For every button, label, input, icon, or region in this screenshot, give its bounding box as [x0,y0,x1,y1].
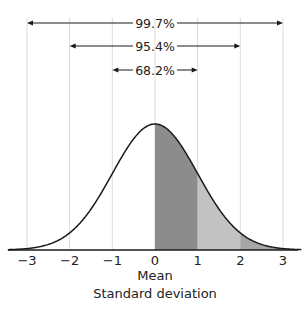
range-label: 99.7% [135,16,175,31]
x-tick-label: 1 [194,253,202,268]
x-tick-label: −1 [103,253,122,268]
range-annotation: 99.7% [27,16,283,31]
range-label: 68.2% [135,63,175,78]
shaded-region [155,124,198,250]
x-tick-label: −3 [17,253,36,268]
normal-distribution-chart: −3−2−10123 Mean Standard deviation 99.7%… [0,0,306,314]
range-annotation: 95.4% [70,39,241,54]
range-annotation: 68.2% [112,63,197,78]
shaded-regions [155,124,283,250]
x-tick-labels: −3−2−10123 [17,253,287,268]
arrow-left-icon [70,44,76,49]
x-tick-label: 2 [236,253,244,268]
arrow-left-icon [27,21,33,26]
sigma-range-annotations: 99.7%95.4%68.2% [27,16,283,78]
mean-label: Mean [137,268,172,283]
arrow-right-icon [234,44,240,49]
arrow-left-icon [112,68,118,73]
arrow-right-icon [192,68,198,73]
range-label: 95.4% [135,39,175,54]
x-tick-label: 3 [279,253,287,268]
x-tick-label: 0 [151,253,159,268]
x-tick-label: −2 [60,253,79,268]
arrow-right-icon [277,21,283,26]
x-axis-title: Standard deviation [93,286,217,301]
